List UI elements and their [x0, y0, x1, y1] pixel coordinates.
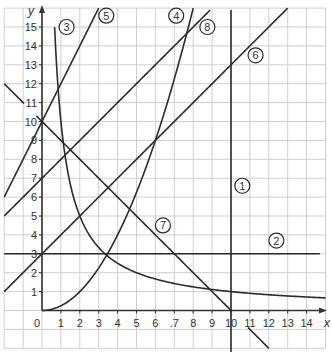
curve-label-6: 6 [248, 48, 263, 63]
curve-label-1: 1 [235, 178, 250, 193]
y-tick-label: 5 [31, 210, 37, 222]
x-tick-label: 11 [244, 317, 255, 329]
y-tick-label: 13 [25, 59, 37, 71]
y-tick-label: 14 [25, 40, 37, 52]
y-tick-label: 2 [31, 267, 37, 279]
y-axis-label: y [27, 4, 35, 18]
svg-text:8: 8 [204, 21, 210, 33]
curve-7 [248, 328, 269, 349]
axes: 123456.7891011121314 1234567891011121314… [25, 4, 331, 330]
x-tick-labels: 123456.7891011121314 [58, 311, 313, 329]
x-tick-label: 6 [152, 317, 158, 329]
y-tick-label: 12 [25, 78, 37, 90]
x-axis-label: x [323, 316, 331, 330]
x-tick-label: 9 [209, 317, 215, 329]
y-tick-label: 7 [31, 172, 37, 184]
curves [4, 8, 325, 352]
x-tick-label: 13 [282, 317, 294, 329]
curve-label-7: 7 [155, 218, 170, 233]
svg-text:1: 1 [239, 180, 245, 192]
x-tick-label: 3 [96, 317, 102, 329]
curve-7 [4, 84, 24, 104]
curve-6 [4, 8, 288, 292]
curve-7 [36, 116, 231, 311]
svg-text:6: 6 [253, 49, 259, 61]
y-tick-label: 11 [26, 97, 37, 109]
x-tick-label: 8 [190, 317, 196, 329]
x-tick-label: 2 [77, 317, 83, 329]
x-tick-label: 4 [115, 317, 121, 329]
svg-text:5: 5 [103, 10, 109, 22]
y-tick-label: 15 [25, 21, 37, 33]
y-tick-label: 4 [31, 229, 37, 241]
svg-text:4: 4 [173, 10, 179, 22]
curve-label-2: 2 [269, 233, 284, 248]
origin-label: 0 [34, 317, 40, 329]
curve-label-4: 4 [169, 8, 184, 23]
y-tick-label: 8 [31, 153, 37, 165]
y-tick-label: 1 [31, 286, 37, 298]
y-tick-label: 6 [31, 191, 37, 203]
x-tick-label: 5 [133, 317, 139, 329]
svg-text:7: 7 [160, 219, 166, 231]
svg-text:2: 2 [273, 235, 279, 247]
curve-label-3: 3 [59, 20, 74, 35]
y-axis-arrow-icon [39, 5, 45, 13]
curve-label-5: 5 [99, 8, 114, 23]
curve-label-8: 8 [200, 20, 215, 35]
curve-3 [55, 27, 326, 298]
graph-plot: 123456.7891011121314 1234567891011121314… [0, 0, 332, 352]
x-tick-label: 12 [263, 317, 275, 329]
grid-lines [4, 8, 325, 348]
x-tick-label: .7 [170, 317, 179, 329]
x-tick-label: 1 [58, 317, 64, 329]
svg-text:3: 3 [64, 21, 70, 33]
x-tick-label: 14 [300, 317, 312, 329]
y-tick-label: 10 [25, 116, 37, 128]
